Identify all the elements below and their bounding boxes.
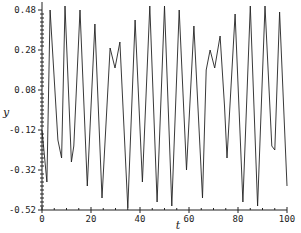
y-tick-label: -0.12 [9,125,36,135]
series-line [42,6,287,208]
y-tick-label: -0.52 [9,205,36,215]
x-tick-label: 60 [184,214,195,224]
line-chart: 0.480.280.08-0.12-0.32-0.52 020406080100… [0,0,301,233]
y-tick-label: -0.32 [9,165,36,175]
y-axis-label: y [2,106,10,119]
plot-area [42,6,287,208]
y-tick-label: 0.48 [14,5,36,15]
x-tick-label: 20 [86,214,97,224]
x-tick-label: 80 [233,214,244,224]
x-tick-label: 40 [135,214,146,224]
x-tick-label: 100 [279,214,295,224]
x-tick-label: 0 [39,214,44,224]
y-tick-label: 0.28 [14,45,36,55]
y-axis: 0.480.280.08-0.12-0.32-0.52 [9,2,44,215]
x-axis-label: t [176,219,181,232]
x-axis: 020406080100 [39,207,295,224]
y-tick-label: 0.08 [14,85,36,95]
